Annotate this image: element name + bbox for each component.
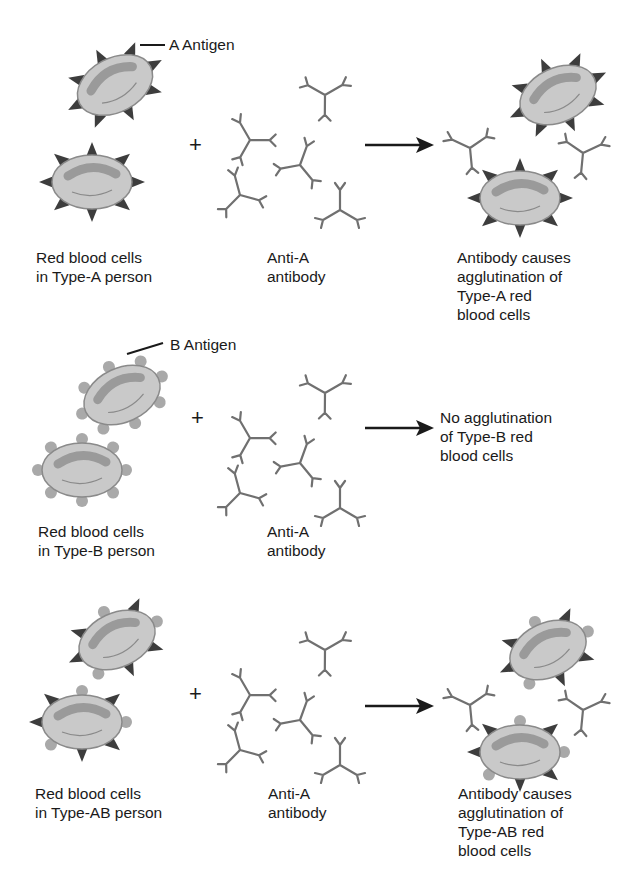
b-antigen-label: B Antigen xyxy=(170,335,236,354)
a-antigen-label: A Antigen xyxy=(169,35,235,54)
arrow-row1 xyxy=(365,137,434,153)
plus-sign-row2: + xyxy=(191,407,204,429)
anti-a-antibody-label-row2: Anti-A antibody xyxy=(267,522,326,560)
type-b-cells-label: Red blood cells in Type-B person xyxy=(38,522,155,560)
type-a-result-label: Antibody causes agglutination of Type-A … xyxy=(457,248,571,324)
anti-a-antibody-label-row3: Anti-A antibody xyxy=(268,784,327,822)
type-ab-cells-label: Red blood cells in Type-AB person xyxy=(35,784,162,822)
arrow-row3 xyxy=(365,698,434,714)
type-a-cell-bottom xyxy=(39,142,145,222)
type-b-result-label: No agglutination of Type-B red blood cel… xyxy=(440,408,552,465)
type-b-cell-top xyxy=(61,340,183,449)
type-b-cell-bottom xyxy=(32,433,132,507)
anti-a-antibodies-row1 xyxy=(209,60,365,228)
arrow-row2 xyxy=(365,420,434,436)
type-a-cells-label: Red blood cells in Type-A person xyxy=(36,248,152,286)
agglutinated-ab-cells xyxy=(435,595,618,792)
b-antigen-pointer xyxy=(127,343,163,354)
type-ab-result-label: Antibody causes agglutination of Type-AB… xyxy=(458,784,572,860)
agglutinated-a-cells xyxy=(435,36,623,238)
plus-sign-row1: + xyxy=(189,134,202,156)
anti-a-antibodies-row3 xyxy=(209,615,365,783)
type-a-cell-top xyxy=(49,25,180,145)
anti-a-antibodies-row2 xyxy=(209,358,365,526)
anti-a-antibody-label-row1: Anti-A antibody xyxy=(267,248,326,286)
type-ab-cell-top xyxy=(53,585,179,698)
type-ab-cell-bottom xyxy=(29,685,132,762)
plus-sign-row3: + xyxy=(189,683,202,705)
